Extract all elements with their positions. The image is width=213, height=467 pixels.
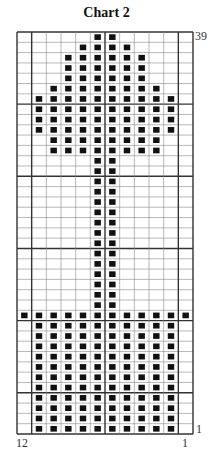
filled-stitch	[94, 158, 100, 164]
filled-stitch	[153, 354, 159, 360]
filled-stitch	[109, 210, 115, 216]
filled-stitch	[124, 45, 130, 51]
filled-stitch	[65, 96, 71, 102]
filled-stitch	[94, 313, 100, 319]
filled-stitch	[94, 374, 100, 380]
filled-stitch	[94, 426, 100, 432]
filled-stitch	[94, 96, 100, 102]
filled-stitch	[168, 96, 174, 102]
filled-stitch	[94, 106, 100, 112]
filled-stitch	[153, 106, 159, 112]
filled-stitch	[50, 96, 56, 102]
filled-stitch	[94, 282, 100, 288]
filled-stitch	[50, 405, 56, 411]
filled-stitch	[168, 405, 174, 411]
filled-stitch	[109, 148, 115, 154]
filled-stitch	[168, 117, 174, 123]
filled-stitch	[21, 313, 27, 319]
filled-stitch	[36, 117, 42, 123]
filled-stitch	[124, 344, 130, 350]
filled-stitch	[109, 230, 115, 236]
filled-stitch	[80, 323, 86, 329]
filled-stitch	[80, 137, 86, 143]
filled-stitch	[109, 302, 115, 308]
filled-stitch	[94, 199, 100, 205]
filled-stitch	[153, 313, 159, 319]
filled-stitch	[94, 210, 100, 216]
filled-stitch	[109, 199, 115, 205]
filled-stitch	[94, 127, 100, 133]
filled-stitch	[36, 354, 42, 360]
filled-stitch	[138, 137, 144, 143]
filled-stitch	[124, 313, 130, 319]
filled-stitch	[168, 127, 174, 133]
filled-stitch	[138, 426, 144, 432]
filled-stitch	[80, 426, 86, 432]
filled-stitch	[153, 405, 159, 411]
filled-stitch	[65, 323, 71, 329]
filled-stitch	[109, 34, 115, 40]
filled-stitch	[50, 364, 56, 370]
filled-stitch	[168, 333, 174, 339]
filled-stitch	[109, 271, 115, 277]
filled-stitch	[94, 168, 100, 174]
filled-stitch	[80, 416, 86, 422]
filled-stitch	[50, 416, 56, 422]
filled-stitch	[65, 117, 71, 123]
filled-stitch	[80, 55, 86, 61]
filled-stitch	[94, 117, 100, 123]
filled-stitch	[153, 344, 159, 350]
filled-stitch	[109, 333, 115, 339]
filled-stitch	[182, 313, 188, 319]
filled-stitch	[109, 313, 115, 319]
filled-stitch	[124, 86, 130, 92]
filled-stitch	[36, 374, 42, 380]
filled-stitch	[124, 426, 130, 432]
filled-stitch	[65, 426, 71, 432]
filled-stitch	[50, 344, 56, 350]
filled-stitch	[109, 220, 115, 226]
filled-stitch	[168, 106, 174, 112]
filled-stitch	[36, 96, 42, 102]
filled-stitch	[109, 86, 115, 92]
filled-stitch	[36, 323, 42, 329]
filled-stitch	[109, 416, 115, 422]
filled-stitch	[36, 395, 42, 401]
filled-stitch	[65, 333, 71, 339]
filled-stitch	[138, 364, 144, 370]
filled-stitch	[80, 96, 86, 102]
filled-stitch	[50, 137, 56, 143]
filled-stitch	[138, 86, 144, 92]
filled-stitch	[124, 405, 130, 411]
filled-stitch	[80, 405, 86, 411]
filled-stitch	[109, 385, 115, 391]
filled-stitch	[109, 251, 115, 257]
filled-stitch	[36, 313, 42, 319]
filled-stitch	[138, 313, 144, 319]
filled-stitch	[109, 45, 115, 51]
filled-stitch	[80, 374, 86, 380]
filled-stitch	[124, 76, 130, 82]
filled-stitch	[65, 148, 71, 154]
filled-stitch	[153, 333, 159, 339]
filled-stitch	[94, 55, 100, 61]
filled-stitch	[50, 333, 56, 339]
filled-stitch	[50, 323, 56, 329]
filled-stitch	[109, 96, 115, 102]
filled-stitch	[65, 364, 71, 370]
filled-stitch	[109, 189, 115, 195]
filled-stitch	[80, 395, 86, 401]
filled-stitch	[50, 117, 56, 123]
filled-stitch	[50, 395, 56, 401]
filled-stitch	[94, 230, 100, 236]
filled-stitch	[94, 65, 100, 71]
filled-stitch	[168, 385, 174, 391]
filled-stitch	[80, 344, 86, 350]
filled-stitch	[153, 148, 159, 154]
filled-stitch	[109, 323, 115, 329]
filled-stitch	[94, 240, 100, 246]
filled-stitch	[168, 395, 174, 401]
filled-stitch	[138, 333, 144, 339]
filled-stitch	[109, 168, 115, 174]
chart-grid	[16, 31, 194, 435]
